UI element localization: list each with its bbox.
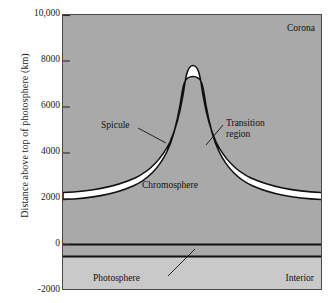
label-transition-region: Transition region <box>226 118 288 140</box>
solar-atmosphere-diagram: Distance above top of photosphere (km) 1… <box>0 0 331 303</box>
label-interior: Interior <box>286 273 315 284</box>
label-corona: Corona <box>287 23 315 34</box>
diagram-canvas <box>63 15 322 290</box>
y-tick-label: 8000 <box>2 55 60 65</box>
y-tick-label: 0 <box>2 239 60 249</box>
y-tick-label: 4000 <box>2 147 60 157</box>
label-transition-region-line1: Transition <box>226 118 265 128</box>
y-tick-label: 6000 <box>2 101 60 111</box>
label-chromosphere: Chromosphere <box>142 180 198 191</box>
y-tick-label: -2000 <box>2 285 60 295</box>
y-axis-tick-labels: 10,000 8000 6000 4000 2000 0 -2000 <box>0 0 60 303</box>
y-tick-label: 2000 <box>2 193 60 203</box>
label-spicule: Spicule <box>101 120 130 131</box>
spicule-leader-line <box>138 128 166 143</box>
plot-area: Corona Spicule Transition region Chromos… <box>62 14 322 290</box>
label-transition-region-line2: region <box>226 129 250 139</box>
label-photosphere: Photosphere <box>93 273 140 284</box>
y-tick-label: 10,000 <box>2 9 60 19</box>
y-axis-ticks <box>63 16 70 291</box>
